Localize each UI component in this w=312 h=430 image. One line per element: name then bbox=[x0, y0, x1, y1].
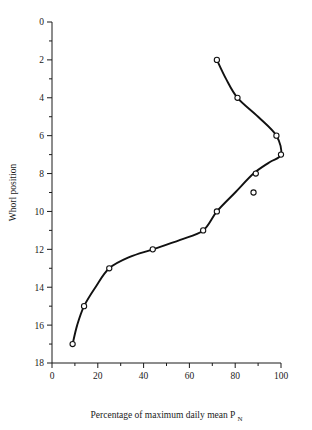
chart-curve bbox=[73, 60, 282, 344]
data-point-marker bbox=[107, 266, 112, 271]
x-tick-label: 60 bbox=[185, 371, 195, 381]
x-tick-label: 100 bbox=[274, 371, 289, 381]
y-tick-label: 16 bbox=[35, 321, 45, 331]
data-point-marker bbox=[235, 95, 240, 100]
x-tick-label: 0 bbox=[50, 371, 55, 381]
data-point-marker bbox=[214, 209, 219, 214]
x-tick-label: 20 bbox=[93, 371, 103, 381]
chart-axis-labels: 024681012141618020406080100Percentage of… bbox=[8, 17, 288, 422]
y-tick-label: 2 bbox=[39, 55, 44, 65]
y-axis-title: Whorl position bbox=[8, 164, 18, 222]
data-point-marker bbox=[278, 152, 283, 157]
x-tick-label: 40 bbox=[139, 371, 149, 381]
chart-figure: 024681012141618020406080100Percentage of… bbox=[0, 0, 312, 430]
y-tick-label: 12 bbox=[35, 245, 45, 255]
y-tick-label: 0 bbox=[39, 17, 44, 27]
data-point-marker bbox=[251, 190, 256, 195]
fitted-curve-path bbox=[73, 60, 282, 344]
y-tick-label: 4 bbox=[39, 93, 44, 103]
y-tick-label: 10 bbox=[35, 207, 45, 217]
data-point-marker bbox=[274, 133, 279, 138]
data-point-marker bbox=[253, 171, 258, 176]
y-tick-label: 18 bbox=[35, 358, 45, 368]
x-axis-title: Percentage of maximum daily mean P N bbox=[91, 410, 243, 423]
data-point-marker bbox=[150, 247, 155, 252]
chart-axes bbox=[47, 22, 281, 368]
data-point-marker bbox=[81, 304, 86, 309]
data-point-marker bbox=[214, 57, 219, 62]
y-tick-label: 8 bbox=[39, 169, 44, 179]
x-tick-label: 80 bbox=[230, 371, 240, 381]
chart-data-markers bbox=[70, 57, 284, 346]
whorl-position-chart: 024681012141618020406080100Percentage of… bbox=[0, 0, 312, 430]
y-tick-label: 14 bbox=[35, 283, 45, 293]
data-point-marker bbox=[201, 228, 206, 233]
y-tick-label: 6 bbox=[39, 131, 44, 141]
data-point-marker bbox=[70, 341, 75, 346]
